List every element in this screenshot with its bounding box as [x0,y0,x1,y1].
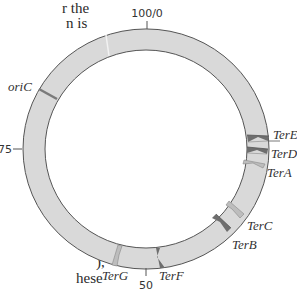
label-TerG: TerG [102,268,129,283]
chromosome-map: 100/0 75 50 oriC TerE TerD TerA TerC Ter… [0,0,297,291]
label-TerC: TerC [247,218,273,233]
label-TerF: TerF [159,268,185,283]
chromosome-ring [23,29,269,269]
position-label-top: 100/0 [131,7,163,20]
label-TerB: TerB [232,237,257,252]
label-TerA: TerA [267,165,292,180]
position-label-bottom: 50 [139,279,153,291]
label-TerE: TerE [273,127,297,142]
label-oriC: oriC [8,79,32,94]
position-label-left: 75 [0,143,12,156]
label-TerD: TerD [271,146,297,161]
